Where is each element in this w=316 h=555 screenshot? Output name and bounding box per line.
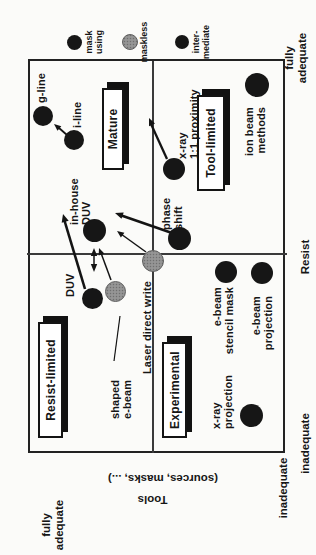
tools-axis-subtitle: (sources, masks, ...) — [98, 471, 228, 485]
legend-dot-mask-using — [67, 35, 82, 50]
label-laser-direct-write: Laser direct write — [141, 281, 153, 374]
quadrant-box-tool-limited: Tool-limited — [197, 95, 225, 191]
quadrant-box-resist-limited: Resist-limited — [38, 322, 63, 438]
dot-laser-direct-write-maskless — [142, 250, 164, 272]
label-ion-beam-methods: ion beam methods — [243, 107, 267, 177]
label-g-line: g-line — [35, 73, 47, 103]
dot-shaped-e-beam-maskless — [105, 281, 126, 302]
legend-dot-intermediate — [175, 35, 189, 49]
resist-axis-left-label: inadequate — [299, 398, 312, 489]
quadrant-box-mature: Mature — [102, 88, 124, 170]
label-shaped-e-beam: shaped e-beam — [109, 380, 133, 419]
resist-axis-right-label: fully adequate — [283, 13, 308, 103]
legend-label-maskless: maskless — [140, 10, 150, 74]
dot-phase-shift — [168, 227, 191, 250]
lithography-quadrant-diagram: Resist-limited Mature Experimental Tool-… — [0, 0, 316, 555]
label-i-line: i-line — [71, 102, 83, 128]
dot-g-line — [33, 106, 53, 126]
label-in-house-duv: in-house DUV — [68, 178, 92, 225]
dot-x-ray-projection — [240, 404, 263, 427]
label-e-beam-stencil-mask: e-beam stencil mask — [211, 287, 235, 371]
label-x-ray-projection: x-ray projection — [210, 375, 234, 429]
legend-dot-maskless — [122, 34, 138, 50]
legend-label-mask-using: mask using — [85, 10, 104, 74]
label-phase-shift: phase shift — [160, 198, 184, 230]
tools-axis-bottom-label: inadequate — [277, 441, 290, 535]
scanned-figure-page: Resist-limited Mature Experimental Tool-… — [0, 0, 316, 555]
quadrant-box-experimental: Experimental — [162, 342, 187, 438]
dot-x-ray-proximity — [163, 158, 185, 180]
resist-axis-title: Resist — [299, 217, 312, 297]
tools-axis-title: Tools — [127, 493, 179, 506]
dot-ion-beam-methods — [245, 73, 269, 97]
legend-label-intermediate: inter- mediate — [192, 10, 211, 74]
label-x-ray-proximity: x-ray 1:1 proximity — [176, 89, 200, 159]
dot-duv — [82, 288, 103, 309]
label-e-beam-projection: e-beam projection — [250, 296, 274, 380]
dot-i-line — [64, 130, 84, 150]
dot-e-beam-projection — [251, 262, 273, 284]
dot-e-beam-stencil-mask — [215, 261, 237, 283]
label-duv: DUV — [64, 273, 76, 297]
tools-axis-top-label: fully adequate — [40, 497, 65, 553]
